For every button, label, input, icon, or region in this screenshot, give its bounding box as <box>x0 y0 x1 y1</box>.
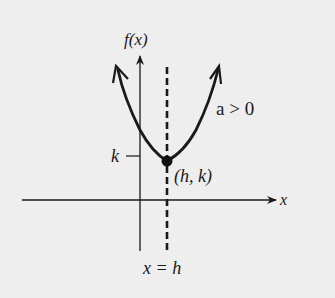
axis-of-symmetry-label: x = h <box>142 258 181 278</box>
x-axis-label: x <box>279 191 287 208</box>
diagram-canvas: f(x) x a > 0 k (h, k) x = h <box>0 0 335 298</box>
condition-label: a > 0 <box>216 98 254 119</box>
vertex-point <box>162 156 173 167</box>
parabola-diagram: f(x) x a > 0 k (h, k) x = h <box>0 0 335 298</box>
y-axis-label: f(x) <box>124 30 148 49</box>
k-label: k <box>111 146 120 166</box>
vertex-label: (h, k) <box>174 166 212 187</box>
